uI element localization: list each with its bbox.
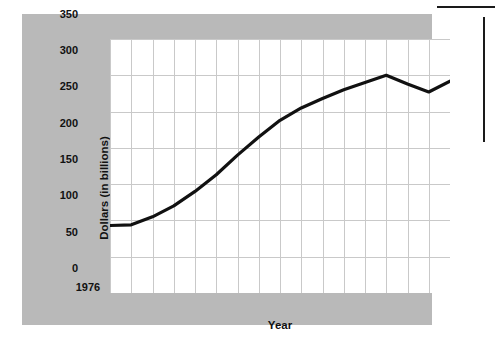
decorative-rule-top bbox=[437, 6, 495, 8]
plot-svg bbox=[110, 39, 450, 293]
vertical-gridlines bbox=[111, 39, 451, 293]
y-tick-label: 350 bbox=[32, 9, 78, 20]
y-tick-label: 300 bbox=[32, 45, 78, 56]
decorative-rule-right bbox=[483, 17, 485, 142]
chart-figure: 350 300 250 200 150 100 50 0 1976 1978 1… bbox=[0, 0, 495, 341]
plot-area bbox=[110, 39, 450, 293]
chart-panel: 350 300 250 200 150 100 50 0 1976 1978 1… bbox=[22, 14, 432, 325]
y-axis-title: Dollars (in billions) bbox=[98, 108, 110, 268]
y-axis-title-wrapper: Dollars (in billions) bbox=[50, 74, 74, 274]
x-axis-title: Year bbox=[190, 319, 370, 331]
